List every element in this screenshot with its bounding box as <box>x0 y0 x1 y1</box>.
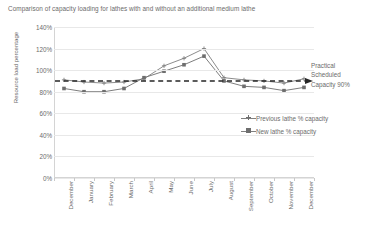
x-tick-label: April <box>147 181 154 193</box>
annotation-line: Capacity 90% <box>311 80 380 89</box>
legend-item[interactable]: Previous lathe % capacity <box>241 113 380 124</box>
x-tick-label: December <box>307 181 314 210</box>
data-point-marker <box>142 76 146 80</box>
y-tick-label: 80% <box>39 88 52 95</box>
data-point-marker <box>202 54 206 58</box>
data-point-marker <box>122 87 126 91</box>
annotation-line: Practical <box>311 61 380 70</box>
x-tick-label: January <box>87 181 94 203</box>
chart-title: Comparison of capacity loading for lathe… <box>8 4 372 13</box>
x-tick-mark <box>314 178 315 181</box>
x-tick-label: November <box>287 181 294 210</box>
gridline <box>54 156 314 157</box>
series-lines <box>54 27 314 178</box>
x-axis-labels: DecemberJanuaryFebruaryMarchAprilMayJune… <box>54 181 314 241</box>
data-point-marker <box>262 86 266 90</box>
gridline <box>54 70 314 71</box>
x-tick-label: February <box>107 181 114 206</box>
y-tick-label: 140% <box>36 24 52 31</box>
annotation-practical-scheduled-capacity: PracticalScheduledCapacity 90% <box>311 61 380 89</box>
x-tick-label: March <box>127 181 134 198</box>
y-tick-label: 20% <box>39 153 52 160</box>
gridline <box>54 178 314 179</box>
x-tick-label: December <box>67 181 74 210</box>
y-tick-label: 60% <box>39 110 52 117</box>
annotation-line: Scheduled <box>311 70 380 79</box>
data-point-marker <box>62 87 66 91</box>
y-tick-label: 40% <box>39 131 52 138</box>
x-tick-label: August <box>227 181 234 200</box>
plot-area <box>54 27 314 178</box>
gridline <box>54 27 314 28</box>
data-point-marker <box>182 56 186 60</box>
data-point-marker <box>242 85 246 89</box>
legend-item-label: New lathe % capacity <box>256 128 316 135</box>
x-tick-label: July <box>207 181 214 192</box>
legend-item-label: Previous lathe % capacity <box>256 115 328 122</box>
data-point-marker <box>182 63 186 67</box>
chart-legend: Previous lathe % capacityNew lathe % cap… <box>241 113 380 139</box>
legend-marker-icon <box>241 114 256 123</box>
chart-container: Comparison of capacity loading for lathe… <box>0 0 380 241</box>
x-tick-label: September <box>247 181 254 211</box>
gridline <box>54 92 314 93</box>
legend-item[interactable]: New lathe % capacity <box>241 126 380 137</box>
y-tick-label: 100% <box>36 67 52 74</box>
x-tick-label: May <box>167 181 174 193</box>
y-axis-ticks: 0%20%40%60%80%100%120%140% <box>0 0 52 241</box>
x-tick-label: October <box>267 181 274 203</box>
x-tick-label: June <box>187 181 194 194</box>
gridline <box>54 49 314 50</box>
series-line <box>64 56 304 92</box>
y-tick-label: 0% <box>43 175 52 182</box>
y-tick-label: 120% <box>36 45 52 52</box>
legend-marker-icon <box>241 127 256 136</box>
data-point-marker <box>302 86 306 90</box>
